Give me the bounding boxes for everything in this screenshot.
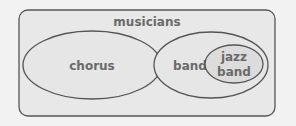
jazz-band-label-line2: band xyxy=(217,65,251,79)
musicians-label: musicians xyxy=(113,15,180,29)
chorus-label: chorus xyxy=(69,59,115,73)
jazz-band-label-line1: jazz xyxy=(220,50,247,64)
venn-diagram: musicians chorus band jazz band xyxy=(0,0,296,126)
band-label: band xyxy=(173,59,207,73)
